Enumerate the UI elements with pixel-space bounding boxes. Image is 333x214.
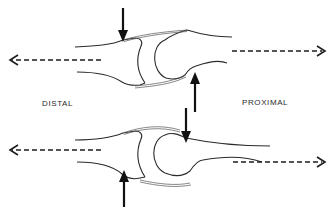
bottom-proximal-bone-upper-edge [165,134,270,146]
bottom-distal-bone-upper-edge [75,131,145,177]
top-joint-figure [10,8,325,112]
top-force-arrowhead-up [190,72,200,84]
top-proximal-bone-head [155,40,196,79]
top-proximal-bone-upper-edge [165,30,232,40]
bottom-force-arrowhead-down [181,131,191,143]
top-proximal-bone-lower-edge [196,61,227,66]
distal-label: DISTAL [42,99,73,108]
proximal-label: PROXIMAL [242,98,288,107]
bottom-joint-figure [10,108,325,207]
bottom-distal-bone-lower-edge [77,162,145,179]
joint-traction-diagram: DISTAL PROXIMAL [0,0,333,214]
bottom-proximal-bone-head [154,135,203,175]
bottom-force-arrowhead-up [119,170,129,182]
top-force-arrowhead-down [118,30,128,42]
top-distal-bone-lower-edge [77,72,145,85]
